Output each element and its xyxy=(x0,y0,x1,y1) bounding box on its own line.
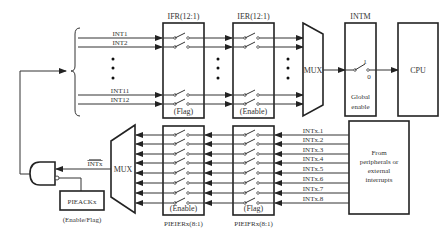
pieack-caption: (Enable/Flag) xyxy=(63,216,102,224)
top-mux-label: MUX xyxy=(304,66,323,75)
switch-contact xyxy=(257,182,260,185)
switch-contact xyxy=(257,202,260,205)
ellipsis-dot xyxy=(112,67,115,70)
input-label: INT12 xyxy=(111,96,130,104)
ier-caption: (Enable) xyxy=(240,107,268,116)
switch-contact xyxy=(257,153,260,156)
cpu-label: CPU xyxy=(410,66,426,75)
source-text-2: peripherals or xyxy=(360,158,399,166)
pieifr-title: PIEIFRx(8:1) xyxy=(234,220,273,228)
intm-caption-2: enable xyxy=(351,103,369,111)
intm-block: INTM 1 0 Global enable xyxy=(345,12,376,116)
switch-contact xyxy=(257,134,260,137)
input-brace xyxy=(71,28,80,116)
and-gate xyxy=(30,162,81,191)
switch-contact xyxy=(187,153,190,156)
intx-input-label: INTx.8 xyxy=(303,195,324,203)
pieack-register: PIEACKx (Enable/Flag) xyxy=(60,191,104,224)
ier-title: IER(12:1) xyxy=(237,12,270,21)
switch-contact xyxy=(257,103,260,106)
pieifr-caption: (Flag) xyxy=(244,204,264,213)
top-mux: MUX xyxy=(303,23,323,116)
switch-contact xyxy=(187,202,190,205)
source-text-1: From xyxy=(371,149,387,157)
input-label: INT1 xyxy=(112,30,128,38)
switch-contact xyxy=(257,94,260,97)
peripheral-source-block: From peripherals or external interrupts xyxy=(349,121,409,214)
pieifr-register: (Flag) PIEIFRx(8:1) xyxy=(233,126,274,228)
switch-contact xyxy=(187,192,190,195)
switch-contact xyxy=(187,172,190,175)
switch-contact xyxy=(187,143,190,146)
switch-contact xyxy=(187,162,190,165)
pie-interrupt-diagram: INT1INT2INT11INT12 IFR(12:1) (Flag) IER(… xyxy=(0,0,447,239)
switch-contact xyxy=(187,182,190,185)
input-label: INT11 xyxy=(111,87,130,95)
bottom-mux: MUX xyxy=(111,125,135,213)
switch-contact xyxy=(187,46,190,49)
ellipsis-dot xyxy=(217,77,220,80)
pieier-register: (Enable) PIEIERx(8:1) xyxy=(163,126,204,228)
intm-title: INTM xyxy=(350,12,370,21)
intx-input-label: INTx.1 xyxy=(303,127,324,135)
pieier-title: PIEIERx(8:1) xyxy=(164,220,204,228)
intx-input-label: INTx.4 xyxy=(303,155,324,163)
switch-contact xyxy=(187,37,190,40)
source-text-3: external xyxy=(368,167,391,175)
ifr-title: IFR(12:1) xyxy=(168,12,200,21)
switch-contact xyxy=(257,162,260,165)
ellipsis-dot xyxy=(217,67,220,70)
intx-input-label: INTx.5 xyxy=(303,165,324,173)
cpu-block: CPU xyxy=(398,23,438,116)
ellipsis-dot xyxy=(217,58,220,61)
intm-switch-0: 0 xyxy=(367,73,371,81)
switch-contact xyxy=(257,192,260,195)
pieack-label: PIEACKx xyxy=(68,198,97,206)
switch-contact xyxy=(257,172,260,175)
ellipsis-dot xyxy=(287,58,290,61)
intm-caption-1: Global xyxy=(351,93,370,101)
switch-contact xyxy=(187,94,190,97)
switch-contact xyxy=(257,46,260,49)
inverter-bubble xyxy=(55,176,59,180)
ellipsis-dot xyxy=(287,77,290,80)
intx-input-label: INTx.2 xyxy=(303,136,324,144)
ellipsis-dot xyxy=(112,58,115,61)
pieier-caption: (Enable) xyxy=(170,204,198,213)
bottom-input-lines: INTx.1INTx.2INTx.3INTx.4INTx.5INTx.6INTx… xyxy=(275,127,349,203)
intx-input-label: INTx.6 xyxy=(303,175,324,183)
switch-contact xyxy=(257,143,260,146)
intm-switch-1: 1 xyxy=(363,58,367,66)
ifr-register: IFR(12:1) (Flag) xyxy=(163,12,204,118)
switch-contact xyxy=(187,134,190,137)
intx-input-label: INTx.7 xyxy=(303,185,324,193)
ellipsis-dot xyxy=(287,67,290,70)
intx-input-label: INTx.3 xyxy=(303,146,324,154)
ifr-caption: (Flag) xyxy=(174,107,194,116)
ier-register: IER(12:1) (Enable) xyxy=(233,12,274,118)
ellipsis-dot xyxy=(112,77,115,80)
switch-contact xyxy=(187,103,190,106)
source-text-4: interrupts xyxy=(366,176,393,184)
input-label: INT2 xyxy=(112,39,128,47)
bottom-mux-label: MUX xyxy=(114,165,133,174)
intx-out-label: INTx xyxy=(87,160,103,168)
feedback-wire xyxy=(20,71,66,174)
switch-contact xyxy=(257,37,260,40)
